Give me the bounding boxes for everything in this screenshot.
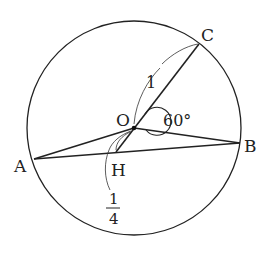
label-b: B <box>244 136 257 156</box>
segment-ab <box>34 143 240 159</box>
label-length-oh-numerator: 1 <box>109 190 119 208</box>
label-length-oh-denominator: 4 <box>109 210 119 228</box>
label-a: A <box>13 156 27 176</box>
label-angle-60: 60° <box>163 111 191 130</box>
segment-ob <box>134 128 240 143</box>
label-c: C <box>201 25 214 45</box>
label-h: H <box>111 160 126 180</box>
label-o: O <box>116 110 130 130</box>
label-length-oc: 1 <box>146 73 156 92</box>
geometry-diagram: C O B A H 1 60° 1 4 <box>0 0 267 258</box>
center-point-o <box>132 126 137 131</box>
